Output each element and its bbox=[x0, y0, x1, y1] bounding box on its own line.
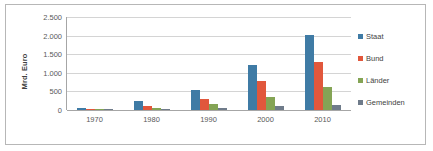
bar[interactable] bbox=[191, 90, 200, 110]
x-axis-tick-label: 1980 bbox=[123, 115, 180, 124]
bar[interactable] bbox=[314, 62, 323, 110]
bar[interactable] bbox=[200, 99, 209, 110]
bar-group bbox=[67, 17, 124, 110]
legend-label: Bund bbox=[366, 54, 384, 63]
legend-label: Staat bbox=[366, 32, 384, 41]
bar[interactable] bbox=[218, 108, 227, 110]
plot-area bbox=[66, 17, 351, 110]
x-axis-tick-labels: 19701980199020002010 bbox=[66, 115, 351, 124]
bar[interactable] bbox=[257, 81, 266, 110]
bar[interactable] bbox=[86, 109, 95, 110]
y-axis-tick-label: 500 bbox=[28, 87, 62, 96]
y-axis-tick-label: 0 bbox=[28, 106, 62, 115]
x-axis-tick-label: 1990 bbox=[180, 115, 237, 124]
legend-swatch-icon bbox=[358, 56, 363, 61]
bar[interactable] bbox=[134, 101, 143, 110]
x-axis-tick-label: 1970 bbox=[66, 115, 123, 124]
bar[interactable] bbox=[161, 109, 170, 110]
legend-label: Länder bbox=[366, 76, 389, 85]
bar-group bbox=[181, 17, 238, 110]
bar[interactable] bbox=[323, 87, 332, 110]
bar[interactable] bbox=[104, 109, 113, 110]
legend-item[interactable]: Gemeinden bbox=[358, 91, 428, 113]
bar[interactable] bbox=[266, 97, 275, 110]
y-axis-tick-label: 1.500 bbox=[28, 50, 62, 59]
y-axis-tick-label: 2.500 bbox=[28, 13, 62, 22]
bar[interactable] bbox=[209, 104, 218, 110]
legend-item[interactable]: Staat bbox=[358, 25, 428, 47]
gridline bbox=[67, 110, 351, 111]
y-axis-tick-label: 1.000 bbox=[28, 68, 62, 77]
y-axis-tick-label: 2.000 bbox=[28, 31, 62, 40]
x-axis-tick-label: 2010 bbox=[294, 115, 351, 124]
bar[interactable] bbox=[95, 109, 104, 110]
legend-swatch-icon bbox=[358, 100, 363, 105]
bar-series-layer bbox=[67, 17, 351, 110]
bar[interactable] bbox=[248, 65, 257, 110]
legend-item[interactable]: Länder bbox=[358, 69, 428, 91]
x-axis-tick-label: 2000 bbox=[237, 115, 294, 124]
bar-group bbox=[124, 17, 181, 110]
legend-swatch-icon bbox=[358, 34, 363, 39]
bar-group bbox=[294, 17, 351, 110]
legend-label: Gemeinden bbox=[366, 98, 405, 107]
bar[interactable] bbox=[143, 106, 152, 110]
chart-legend: StaatBundLänderGemeinden bbox=[358, 25, 428, 113]
bar[interactable] bbox=[275, 106, 284, 110]
legend-swatch-icon bbox=[358, 78, 363, 83]
bar[interactable] bbox=[77, 108, 86, 110]
bar[interactable] bbox=[332, 105, 341, 110]
y-axis-tick-labels: 05001.0001.5002.0002.500 bbox=[28, 17, 62, 110]
chart-frame: Mrd. Euro 05001.0001.5002.0002.500 19701… bbox=[5, 4, 426, 145]
legend-item[interactable]: Bund bbox=[358, 47, 428, 69]
bar[interactable] bbox=[152, 108, 161, 110]
bar-group bbox=[237, 17, 294, 110]
bar[interactable] bbox=[305, 35, 314, 110]
